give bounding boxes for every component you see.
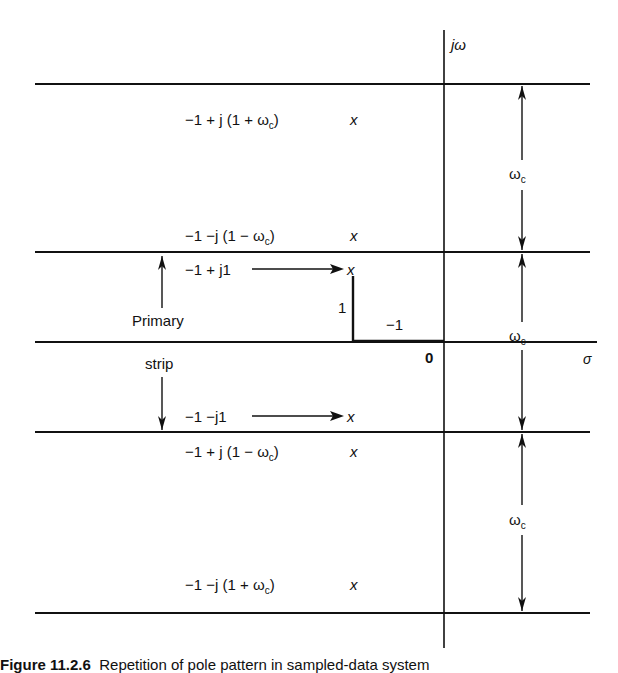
minus-one-label: −1: [386, 317, 403, 332]
pole-label-4: −1 −j1: [185, 409, 227, 424]
pole-label-1: −1 + j (1 + ωc): [185, 112, 279, 131]
figure-caption: Figure 11.2.6 Repetition of pole pattern…: [0, 656, 429, 673]
strip-label: strip: [145, 356, 173, 371]
pole-label-2: −1 −j (1 − ωc): [185, 228, 275, 247]
pole-label-3: −1 + j1: [185, 262, 231, 277]
sigma-axis-label: σ: [583, 352, 591, 366]
pole-label-5: −1 + j (1 − ωc): [185, 444, 279, 463]
primary-label: Primary: [132, 313, 184, 328]
pole-marker-2: x: [350, 228, 358, 243]
pole-marker-4: x: [347, 409, 355, 424]
pole-label-6: −1 −j (1 + ωc): [185, 577, 275, 596]
omega-c-label-3: ωc: [509, 512, 526, 531]
omega-c-label-2: ωc: [509, 328, 526, 347]
pole-marker-6: x: [350, 577, 358, 592]
origin-label: 0: [425, 350, 433, 365]
one-label: 1: [338, 300, 346, 315]
pole-marker-3: x: [347, 262, 355, 277]
omega-c-label-1: ωc: [509, 166, 526, 185]
pole-marker-5: x: [350, 444, 358, 459]
jw-axis-label: jω: [451, 37, 466, 52]
pole-marker-1: x: [350, 112, 358, 127]
